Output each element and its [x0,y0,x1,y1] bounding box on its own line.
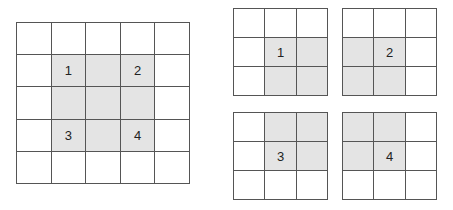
main-cell-0-1 [52,23,87,55]
main-cell-0-4 [155,23,190,55]
sub3-cell-1-0 [234,142,265,171]
main-cell-2-0 [17,87,52,119]
sub-grid-1: 1 [233,8,328,96]
main-cell-3-4 [155,120,190,152]
sub1-cell-0-0 [234,9,265,38]
sub1-cell-2-2 [297,67,328,96]
sub1-cell-2-1 [265,67,296,96]
sub-grid-2: 2 [342,8,437,96]
main-cell-0-3 [121,23,156,55]
main-cell-1-4 [155,55,190,87]
sub3-cell-2-0 [234,171,265,200]
sub4-cell-1-0 [343,142,374,171]
sub2-cell-1-0 [343,38,374,67]
sub2-cell-0-0 [343,9,374,38]
main-cell-4-2 [86,152,121,184]
main-cell-1-3: 2 [121,55,156,87]
main-cell-4-3 [121,152,156,184]
main-cell-4-4 [155,152,190,184]
sub2-cell-2-0 [343,67,374,96]
sub2-cell-0-2 [406,9,437,38]
main-cell-0-0 [17,23,52,55]
sub1-cell-1-2 [297,38,328,67]
sub3-cell-0-0 [234,113,265,142]
position-label: 3 [277,149,284,164]
sub2-cell-1-1: 2 [374,38,405,67]
sub3-cell-1-1: 3 [265,142,296,171]
position-label: 2 [386,45,393,60]
main-cell-2-3 [121,87,156,119]
sub2-cell-1-2 [406,38,437,67]
sub4-cell-2-0 [343,171,374,200]
sub4-cell-2-1 [374,171,405,200]
main-cell-3-2 [86,120,121,152]
position-label: 1 [65,63,72,78]
main-cell-2-1 [52,87,87,119]
sub4-cell-1-1: 4 [374,142,405,171]
position-label: 4 [134,128,141,143]
main-cell-4-1 [52,152,87,184]
main-cell-1-2 [86,55,121,87]
main-cell-3-0 [17,120,52,152]
main-cell-0-2 [86,23,121,55]
position-label: 3 [65,128,72,143]
sub1-cell-0-2 [297,9,328,38]
position-label: 2 [134,63,141,78]
sub4-cell-1-2 [406,142,437,171]
sub1-cell-0-1 [265,9,296,38]
sub2-cell-2-2 [406,67,437,96]
sub3-cell-1-2 [297,142,328,171]
sub4-cell-0-1 [374,113,405,142]
sub2-cell-2-1 [374,67,405,96]
sub3-cell-2-2 [297,171,328,200]
sub-grid-4: 4 [342,112,437,200]
sub1-cell-2-0 [234,67,265,96]
sub1-cell-1-1: 1 [265,38,296,67]
main-cell-3-3: 4 [121,120,156,152]
main-cell-4-0 [17,152,52,184]
sub4-cell-2-2 [406,171,437,200]
main-cell-3-1: 3 [52,120,87,152]
main-cell-2-2 [86,87,121,119]
main-cell-1-1: 1 [52,55,87,87]
main-cell-1-0 [17,55,52,87]
sub1-cell-1-0 [234,38,265,67]
sub4-cell-0-0 [343,113,374,142]
main-grid-5x5: 1234 [16,22,190,184]
sub3-cell-0-2 [297,113,328,142]
position-label: 4 [386,149,393,164]
position-label: 1 [277,45,284,60]
main-cell-2-4 [155,87,190,119]
sub2-cell-0-1 [374,9,405,38]
sub-grid-3: 3 [233,112,328,200]
sub3-cell-2-1 [265,171,296,200]
sub3-cell-0-1 [265,113,296,142]
sub4-cell-0-2 [406,113,437,142]
